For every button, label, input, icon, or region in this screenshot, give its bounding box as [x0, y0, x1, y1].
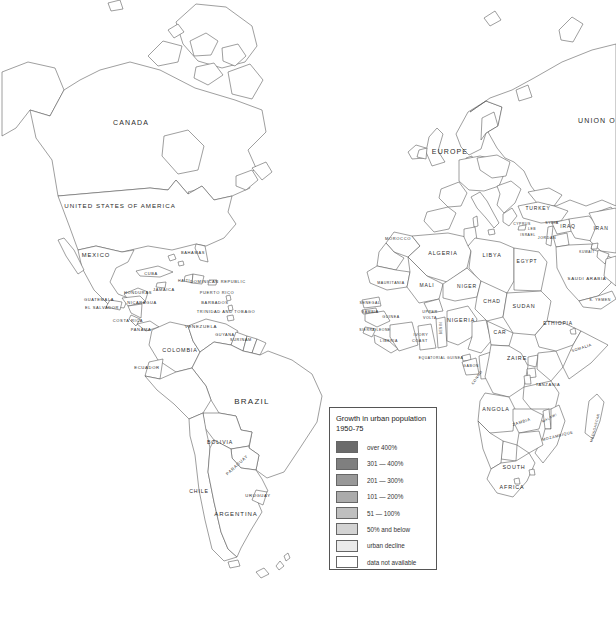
label-senegal: SENEGAL — [359, 301, 380, 305]
country-greenland — [176, 4, 257, 68]
label-saudi-arabia: SAUDI ARABIA — [568, 276, 607, 281]
legend-swatch-5 — [336, 523, 358, 535]
legend: Growth in urban population 1950-75 over … — [329, 407, 437, 570]
legend-label-4: 51 — 100% — [367, 510, 400, 517]
label-jamaica: JAMAICA — [153, 287, 175, 292]
label-libya: LIBYA — [482, 252, 501, 258]
legend-label-6: urban decline — [367, 542, 405, 549]
label-mali: MALI — [420, 282, 435, 288]
legend-items: over 400%301 — 400%201 — 300%101 — 200%5… — [336, 439, 432, 570]
label-egypt: EGYPT — [517, 258, 538, 264]
label-jordan: JORDAN — [538, 236, 556, 240]
label-panama: PANAMA — [131, 327, 151, 332]
legend-swatch-2 — [336, 474, 358, 486]
label-cyprus: CYPRUS — [513, 222, 531, 226]
label-iran: IRAN — [593, 225, 608, 231]
label-s-yemen: S. YEMEN — [589, 298, 611, 302]
label-canada: CANADA — [113, 119, 149, 126]
label-angola: ANGOLA — [482, 406, 510, 412]
island-trinidad — [227, 315, 234, 321]
legend-row-6: urban decline — [336, 538, 432, 554]
label-algeria: ALGERIA — [428, 250, 457, 256]
label-argentina: ARGENTINA — [214, 511, 258, 517]
country-mauritania — [367, 266, 410, 290]
label-bahamas: BAHAMAS — [181, 250, 205, 255]
country-swaziland — [529, 469, 535, 475]
island-tierra-del-fuego — [228, 560, 240, 568]
label-leb: LEB — [528, 227, 536, 231]
label-volta: VOLTA — [423, 316, 437, 320]
legend-swatch-6 — [336, 540, 358, 552]
country-uganda — [528, 355, 538, 367]
label-coast: COAST — [412, 339, 428, 343]
label-chile: CHILE — [189, 488, 208, 494]
label-iraq: IRAQ — [560, 223, 575, 229]
label-trinidad-and-tobago: TRINIDAD AND TOBAGO — [197, 309, 255, 314]
label-benin: BENIN — [439, 322, 443, 334]
region-iberia — [424, 207, 456, 232]
legend-label-5: 50% and below — [367, 526, 410, 533]
label-car: CAR — [494, 329, 507, 335]
label-liberia: LIBERIA — [380, 339, 398, 343]
legend-label-0: over 400% — [367, 444, 397, 451]
label-bolivia: BOLIVIA — [207, 439, 233, 445]
legend-swatch-1 — [336, 458, 358, 470]
legend-label-1: 301 — 400% — [367, 460, 403, 467]
island-baffin — [228, 64, 263, 99]
label-sierra-leone: SIERRA LEONE — [359, 328, 391, 332]
label-chad: CHAD — [483, 298, 500, 304]
legend-title-line2: 1950-75 — [336, 424, 364, 433]
island-bahamas-2 — [178, 261, 184, 266]
label-ethiopia: ETHIOPIA — [543, 320, 573, 326]
label-sudan: SUDAN — [512, 303, 535, 309]
label-union-o: UNION O — [578, 117, 616, 124]
world-map: CANADAUNITED STATES OF AMERICAMEXICOBAHA… — [0, 0, 616, 621]
label-brazil: BRAZIL — [234, 397, 270, 406]
region-rwanda-burundi — [524, 375, 531, 384]
country-botswana — [501, 441, 517, 461]
island-south-atlantic-2 — [284, 553, 290, 561]
island-arctic-1 — [148, 41, 182, 66]
country-nicaragua — [128, 304, 142, 318]
legend-title-line1: Growth in urban population — [336, 414, 426, 423]
label-syria: SYRIA — [545, 221, 559, 225]
country-france — [439, 182, 467, 207]
label-kuwait: KUWAIT — [579, 250, 594, 254]
label-haiti: HAITI — [178, 279, 190, 283]
label-africa: AFRICA — [500, 484, 525, 490]
island-south-atlantic-1 — [276, 561, 284, 570]
label-ecuador: ECUADOR — [134, 365, 160, 370]
legend-row-0: over 400% — [336, 439, 432, 455]
label-barbados: BARBADOS — [201, 300, 228, 305]
label-guyana: GUYANA — [215, 333, 234, 337]
label-gabon: GABON — [463, 364, 479, 368]
legend-swatch-4 — [336, 507, 358, 519]
map-page: CANADAUNITED STATES OF AMERICAMEXICOBAHA… — [0, 0, 616, 621]
label-guatemala: GUATEMALA — [84, 297, 114, 302]
label-europe: EUROPE — [432, 148, 468, 155]
label-puerto-rico: PUERTO RICO — [200, 290, 235, 295]
legend-label-3: 101 — 200% — [367, 493, 403, 500]
legend-swatch-7 — [336, 556, 358, 568]
label-nigeria: NIGERIA — [447, 317, 475, 323]
label-cuba: CUBA — [144, 271, 158, 276]
region-balkans — [497, 181, 521, 213]
label-united-states-of-america: UNITED STATES OF AMERICA — [64, 202, 176, 209]
country-uk — [426, 128, 445, 166]
label-honduras: HONDURAS — [124, 290, 152, 295]
label-tanzania: TANZANIA — [536, 382, 561, 387]
label-south: SOUTH — [502, 464, 525, 470]
label-costa-rica: COSTA RICA — [113, 318, 143, 323]
label-dominican-republic: DOMINICAN REPUBLIC — [190, 279, 246, 284]
legend-row-5: 50% and below — [336, 521, 432, 537]
legend-row-2: 201 — 300% — [336, 472, 432, 488]
label-turkey: TURKEY — [525, 205, 550, 211]
island-sicily — [488, 229, 495, 235]
country-zaire — [485, 345, 528, 397]
label-zaire: ZAIRE — [507, 355, 527, 361]
label-upper: UPPER — [422, 310, 437, 314]
legend-title: Growth in urban population 1950-75 — [336, 414, 432, 434]
legend-label-7: data not available — [367, 559, 416, 566]
label-ivory: IVORY — [414, 333, 429, 337]
label-surinam: SURINAM — [230, 338, 252, 342]
